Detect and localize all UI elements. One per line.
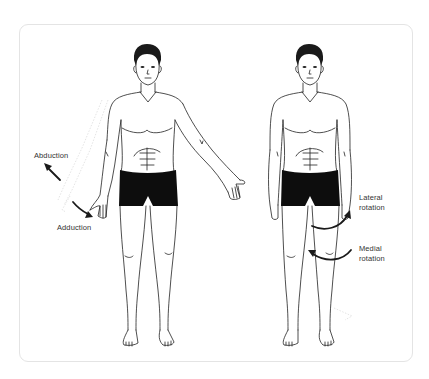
lateral-rotation-line2: rotation — [359, 203, 385, 213]
medial-rotation-line2: rotation — [359, 254, 385, 264]
abduction-label: Abduction — [34, 151, 68, 161]
left-figure — [58, 44, 245, 346]
shorts — [119, 170, 178, 206]
abduction-arrow — [44, 163, 60, 180]
lateral-rotation-label: Lateral rotation — [359, 193, 385, 213]
hair — [134, 44, 161, 66]
lateral-rotation-line1: Lateral — [359, 193, 385, 203]
medial-rotation-label: Medial rotation — [359, 244, 385, 264]
adduction-label: Adduction — [57, 223, 91, 233]
medial-rotation-line1: Medial — [359, 244, 385, 254]
anatomy-illustration — [0, 0, 429, 379]
right-figure — [269, 44, 353, 346]
lateral-rotation-arrow — [312, 210, 351, 229]
